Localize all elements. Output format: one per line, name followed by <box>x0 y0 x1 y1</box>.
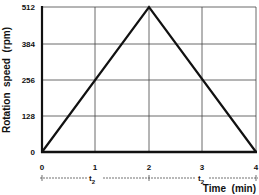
interval-t2-first: t2 <box>89 174 96 185</box>
x-tick-2: 2 <box>147 163 152 172</box>
rotation-speed-chart: 512 384 256 128 0 0 1 2 3 4 t2 t2 Time (… <box>0 0 259 195</box>
y-axis-label: Rotation speed (rpm) <box>1 27 12 133</box>
x-tick-4: 4 <box>254 163 259 172</box>
grid <box>42 7 256 152</box>
x-axis-label: Time (min) <box>203 183 256 194</box>
x-tick-0: 0 <box>40 163 45 172</box>
y-tick-256: 256 <box>22 76 36 85</box>
x-tick-1: 1 <box>93 163 98 172</box>
y-tick-384: 384 <box>22 40 36 49</box>
y-tick-512: 512 <box>22 3 36 12</box>
y-tick-0: 0 <box>31 148 36 157</box>
interval-annotation <box>40 175 258 181</box>
x-tick-3: 3 <box>200 163 205 172</box>
y-tick-128: 128 <box>22 112 36 121</box>
